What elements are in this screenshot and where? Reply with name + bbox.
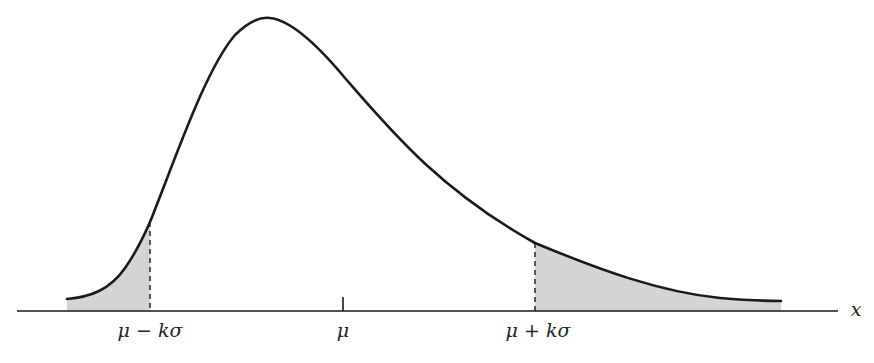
mean-label: μ (337, 319, 349, 341)
probability-density-diagram: μ − kσ μ μ + kσ x (0, 0, 874, 363)
left-bound-label: μ − kσ (118, 319, 184, 341)
density-curve (67, 18, 781, 301)
axis-label: x (851, 298, 862, 320)
right-bound-label: μ + kσ (506, 319, 572, 341)
